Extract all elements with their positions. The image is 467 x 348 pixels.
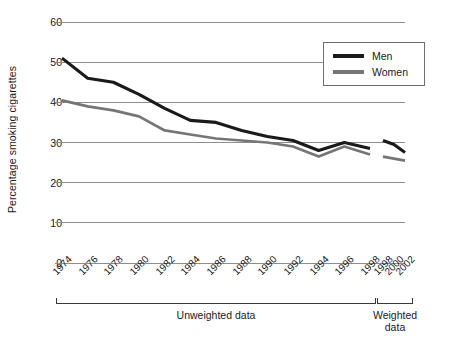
group-bracket-weighted <box>377 298 413 304</box>
y-tick-mark-30 <box>55 142 62 143</box>
legend-swatch-men <box>333 54 364 58</box>
group-label-weighted-line1: Weighted <box>361 309 429 321</box>
y-axis-title-text: Percentage smoking cigarettes <box>6 66 18 213</box>
group-bracket-unweighted <box>56 298 376 304</box>
y-tick-mark-40 <box>55 102 62 103</box>
legend-item-men: Men <box>324 48 424 64</box>
y-tick-mark-20 <box>55 182 62 183</box>
series-line-women-weighted <box>383 157 405 161</box>
legend-swatch-women <box>333 70 364 74</box>
legend-item-women: Women <box>324 64 424 80</box>
y-tick-mark-50 <box>55 62 62 63</box>
series-line-men-weighted <box>383 140 405 152</box>
y-axis-ticks: 6050403020100 <box>26 22 62 263</box>
y-tick-mark-60 <box>55 22 62 23</box>
group-label-weighted: Weighted data <box>361 309 429 333</box>
smoking-prevalence-line-chart: Percentage smoking cigarettes 6050403020… <box>0 0 467 348</box>
legend-label-men: Men <box>372 51 392 62</box>
y-axis-title: Percentage smoking cigarettes <box>0 0 24 280</box>
y-tick-mark-10 <box>55 222 62 223</box>
y-tick-mark-0 <box>55 263 62 264</box>
group-label-unweighted: Unweighted data <box>56 309 376 321</box>
legend-label-women: Women <box>372 67 408 78</box>
legend: Men Women <box>323 42 425 86</box>
group-label-weighted-line2: data <box>361 321 429 333</box>
